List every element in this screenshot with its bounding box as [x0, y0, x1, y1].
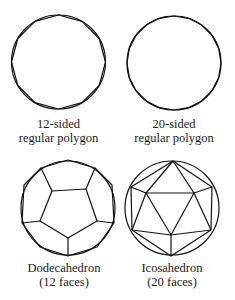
edge — [146, 193, 171, 235]
polyhedra-diagram: 12-sided regular polygon 20-sided regula… — [0, 0, 235, 300]
edge — [194, 187, 212, 193]
dodecahedron-figure — [21, 160, 115, 256]
dodecahedron-front-face — [40, 189, 97, 238]
edge — [131, 187, 146, 193]
caption-dodecahedron-line1: Dodecahedron — [28, 261, 102, 275]
edge — [171, 193, 194, 235]
caption-12-sided-line2: regular polygon — [19, 131, 99, 145]
caption-20-sided-line2: regular polygon — [134, 131, 214, 145]
caption-dodecahedron-line2: (12 faces) — [39, 275, 89, 289]
twelve-sided-polygon-figure — [12, 15, 106, 109]
edge — [22, 221, 40, 223]
edge — [132, 193, 146, 230]
edge — [194, 193, 211, 230]
edge — [173, 161, 194, 193]
icosahedron-figure — [125, 161, 219, 256]
edge — [86, 168, 95, 189]
twenty-sided-polygon-figure — [127, 16, 221, 110]
caption-icosahedron-line1: Icosahedron — [141, 261, 203, 275]
edge — [41, 168, 52, 191]
circumscribed-circle — [12, 15, 106, 109]
caption-12-sided-line1: 12-sided — [37, 117, 81, 131]
circumscribed-sphere-outline — [125, 161, 219, 255]
edge — [97, 221, 114, 223]
twenty-sided-polygon — [127, 16, 221, 110]
caption-icosahedron-line2: (20 faces) — [147, 275, 197, 289]
caption-20-sided-line1: 20-sided — [152, 117, 196, 131]
